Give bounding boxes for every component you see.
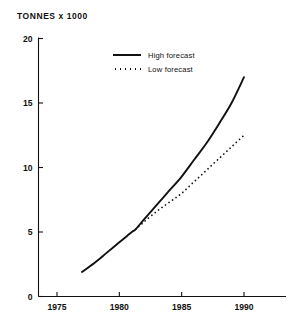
x-tick-label: 1980 [110,302,129,312]
axis-tick-labels: 051015201975198019851990 [23,34,254,312]
y-tick-label: 0 [28,292,33,302]
plot-area: 051015201975198019851990 [0,0,298,330]
series-line-low-forecast [136,135,244,229]
x-tick-label: 1975 [47,302,66,312]
x-tick-label: 1990 [234,302,253,312]
data-series [82,77,244,272]
series-line-high-forecast [82,77,244,272]
axes [39,38,287,297]
axis-ticks [39,39,245,297]
y-tick-label: 10 [23,163,33,173]
y-tick-label: 5 [28,227,33,237]
y-tick-label: 20 [23,34,33,44]
x-tick-label: 1985 [172,302,191,312]
y-tick-label: 15 [23,98,33,108]
forecast-line-chart: TONNES x 1000 High forecast Low forecast… [0,0,298,330]
